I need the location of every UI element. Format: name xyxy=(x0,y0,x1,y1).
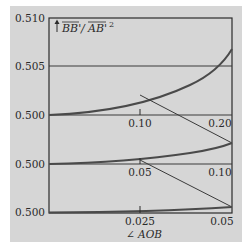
curve-top xyxy=(49,49,232,115)
ylabel-sep: / xyxy=(80,22,86,35)
ytick-label-mid-0500: 0.500 xyxy=(15,158,45,170)
arrowhead-icon xyxy=(55,20,60,25)
ytick-label-0505: 0.505 xyxy=(15,60,45,72)
x-axis-label: ∠ AOB xyxy=(126,228,162,240)
y-axis-label: BB' / AB' 2 xyxy=(55,20,115,36)
ylabel-den: AB' xyxy=(87,22,107,35)
ytick-label-bottom-0500: 0.500 xyxy=(15,206,45,218)
xtick-label-top-020: 0.20 xyxy=(208,117,231,129)
xtick-label-bottom-0025: 0.025 xyxy=(125,215,155,227)
xtick-label-mid-010: 0.10 xyxy=(208,166,231,178)
xtick-label-top-010: 0.10 xyxy=(128,117,151,129)
xtick-label-mid-005: 0.05 xyxy=(128,166,151,178)
ytick-label-top-0500: 0.500 xyxy=(15,109,45,121)
ylabel-exp: 2 xyxy=(109,20,114,29)
ylabel-num: BB' xyxy=(61,22,81,35)
xtick-label-bottom-005: 0.05 xyxy=(210,215,233,227)
ytick-label-0510: 0.510 xyxy=(15,12,45,24)
chart-svg: 0.510 0.505 0.500 0.500 0.500 0.10 0.20 … xyxy=(0,0,247,250)
